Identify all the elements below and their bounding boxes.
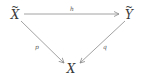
tilde-accent: ~ bbox=[121, 3, 137, 12]
node-y-tilde: ~ Y bbox=[121, 9, 137, 21]
edge-label-q: q bbox=[101, 44, 109, 50]
arrow-q bbox=[80, 21, 125, 63]
node-x: X bbox=[63, 63, 79, 75]
edge-label-h: h bbox=[68, 6, 76, 12]
tilde-accent: ~ bbox=[7, 3, 23, 12]
edge-label-p: p bbox=[33, 44, 41, 50]
node-x-label: X bbox=[67, 62, 76, 76]
arrow-p bbox=[21, 21, 64, 63]
node-x-tilde: ~ X bbox=[7, 9, 23, 21]
